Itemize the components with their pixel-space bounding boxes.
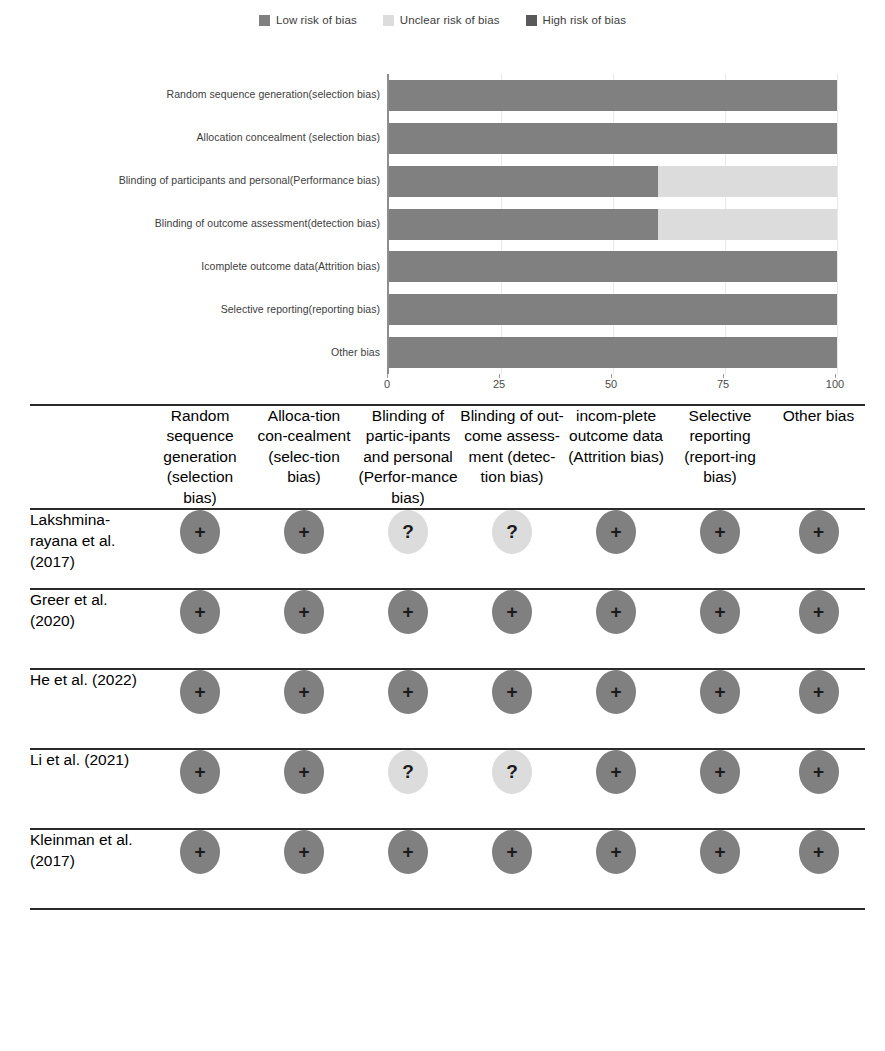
judgement-low-icon: + — [700, 510, 740, 554]
judgement-cell: + — [772, 589, 865, 669]
judgement-cell: + — [460, 829, 564, 909]
judgement-cell: + — [564, 589, 668, 669]
judgement-low-icon: + — [284, 510, 324, 554]
judgement-cell: + — [148, 829, 252, 909]
judgement-low-icon: + — [700, 750, 740, 794]
chart-category-label: Random sequence generation(selection bia… — [30, 88, 380, 100]
study-label: He et al. (2022) — [30, 669, 148, 749]
judgement-unclear-icon: ? — [388, 510, 428, 554]
judgement-low-icon: + — [284, 590, 324, 634]
judgement-low-icon: + — [284, 750, 324, 794]
judgement-unclear-icon: ? — [388, 750, 428, 794]
judgement-low-icon: + — [799, 830, 839, 874]
judgement-low-icon: + — [180, 670, 220, 714]
judgement-cell: + — [460, 669, 564, 749]
chart-x-tick-label: 50 — [605, 378, 617, 390]
judgement-cell: ? — [356, 509, 460, 589]
table-body: Lakshmina-rayana et al. (2017)++??+++Gre… — [30, 509, 865, 909]
judgement-low-icon: + — [284, 830, 324, 874]
judgement-cell: + — [564, 669, 668, 749]
judgement-low-icon: + — [596, 510, 636, 554]
chart-category-label: Selective reporting(reporting bias) — [30, 303, 380, 315]
judgement-low-icon: + — [596, 590, 636, 634]
judgement-cell: + — [252, 589, 356, 669]
chart-bar-segment — [389, 337, 837, 368]
chart-category-label: Allocation concealment (selection bias) — [30, 131, 380, 143]
judgement-low-icon: + — [284, 670, 324, 714]
table-header-study-column — [30, 405, 148, 509]
judgement-unclear-icon: ? — [492, 510, 532, 554]
risk-of-bias-summary-bar-chart: Random sequence generation(selection bia… — [0, 60, 885, 390]
risk-of-bias-table: Random sequence generation (selection bi… — [30, 404, 865, 910]
chart-bar-row — [389, 251, 837, 282]
chart-bar-segment — [389, 123, 837, 154]
judgement-low-icon: + — [799, 590, 839, 634]
square-swatch-icon — [383, 15, 394, 26]
judgement-low-icon: + — [180, 750, 220, 794]
study-label: Li et al. (2021) — [30, 749, 148, 829]
chart-x-axis: 0255075100 — [387, 374, 835, 396]
chart-bar-row — [389, 80, 837, 111]
judgement-cell: + — [148, 589, 252, 669]
legend-item: High risk of bias — [526, 14, 627, 26]
chart-bar-segment — [389, 209, 658, 240]
chart-bar-row — [389, 337, 837, 368]
judgement-cell: + — [772, 669, 865, 749]
judgement-cell: + — [564, 749, 668, 829]
chart-x-tick-label: 0 — [384, 378, 390, 390]
table-row: He et al. (2022)+++++++ — [30, 669, 865, 749]
judgement-cell: + — [772, 509, 865, 589]
judgement-cell: + — [460, 589, 564, 669]
judgement-cell: + — [668, 509, 772, 589]
chart-gridline — [837, 74, 838, 374]
judgement-low-icon: + — [180, 510, 220, 554]
chart-bar-segment — [389, 80, 837, 111]
chart-bar-row — [389, 294, 837, 325]
table-row: Lakshmina-rayana et al. (2017)++??+++ — [30, 509, 865, 589]
chart-category-label: Blinding of outcome assessment(detection… — [30, 217, 380, 229]
table-column-header: Selective reporting (report-ing bias) — [668, 405, 772, 509]
table-column-header: Blinding of partic-ipants and personal (… — [356, 405, 460, 509]
judgement-low-icon: + — [388, 590, 428, 634]
judgement-cell: + — [564, 829, 668, 909]
judgement-cell: + — [356, 589, 460, 669]
table-row: Greer et al. (2020)+++++++ — [30, 589, 865, 669]
chart-x-tick-label: 100 — [826, 378, 844, 390]
chart-x-tick-label: 25 — [493, 378, 505, 390]
chart-bar-row — [389, 123, 837, 154]
judgement-cell: + — [252, 749, 356, 829]
judgement-cell: + — [356, 669, 460, 749]
table-column-header: Blinding of out-come assess-ment (detec-… — [460, 405, 564, 509]
judgement-cell: + — [668, 669, 772, 749]
chart-bar-segment — [389, 251, 837, 282]
judgement-cell: + — [668, 589, 772, 669]
judgement-low-icon: + — [492, 670, 532, 714]
chart-legend: Low risk of biasUnclear risk of biasHigh… — [0, 10, 885, 30]
judgement-cell: + — [148, 669, 252, 749]
judgement-low-icon: + — [700, 590, 740, 634]
chart-plot-area — [387, 74, 837, 374]
study-label: Kleinman et al. (2017) — [30, 829, 148, 909]
table-column-header: Alloca-tion con-cealment (selec-tion bia… — [252, 405, 356, 509]
judgement-low-icon: + — [700, 670, 740, 714]
chart-x-tick-label: 75 — [717, 378, 729, 390]
judgement-low-icon: + — [492, 590, 532, 634]
judgement-low-icon: + — [799, 750, 839, 794]
chart-bar-segment — [389, 166, 658, 197]
table-column-header: incom-plete outcome data (Attrition bias… — [564, 405, 668, 509]
judgement-low-icon: + — [388, 830, 428, 874]
legend-item-label: Unclear risk of bias — [400, 14, 500, 26]
table-column-header: Random sequence generation (selection bi… — [148, 405, 252, 509]
judgement-cell: + — [772, 749, 865, 829]
chart-bar-segment — [658, 209, 837, 240]
judgement-cell: ? — [356, 749, 460, 829]
judgement-cell: + — [668, 829, 772, 909]
judgement-unclear-icon: ? — [492, 750, 532, 794]
judgement-low-icon: + — [596, 750, 636, 794]
chart-bar-segment — [658, 166, 837, 197]
table-head: Random sequence generation (selection bi… — [30, 405, 865, 509]
chart-bar-segment — [389, 294, 837, 325]
table-column-header: Other bias — [772, 405, 865, 509]
table-row: Kleinman et al. (2017)+++++++ — [30, 829, 865, 909]
square-swatch-icon — [526, 15, 537, 26]
